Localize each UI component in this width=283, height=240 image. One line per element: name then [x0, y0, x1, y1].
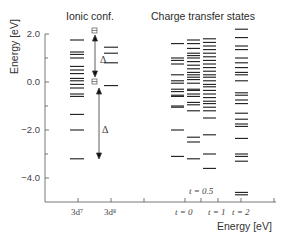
arrow-down-icon	[93, 71, 98, 77]
x-label-t2: t = 2	[232, 207, 250, 217]
x-label-t05: t = 0.5	[189, 186, 213, 196]
y-tick-label: −2.0	[10, 124, 40, 135]
y-tick-label: 2.0	[10, 28, 40, 39]
x-label-t0: t = 0	[175, 207, 193, 217]
ionic-column-title: Ionic conf.	[66, 10, 114, 22]
x-axis-ticks	[78, 198, 274, 202]
arrow-up-icon	[93, 35, 98, 41]
charge-transfer-column-title: Charge transfer states	[151, 10, 255, 22]
x-label-3d7: 3d⁷	[71, 207, 83, 217]
arrow-up-icon	[97, 88, 102, 94]
energy-level-diagram	[0, 0, 283, 240]
y-tick-label: 0.0	[10, 76, 40, 87]
energy-levels	[70, 29, 248, 195]
delta-label: Δ	[100, 54, 106, 65]
x-label-t1: t = 1	[208, 207, 226, 217]
arrow-down-icon	[97, 153, 102, 159]
x-label-3d8: 3d⁸	[104, 207, 116, 217]
delta-label: Δ	[102, 124, 108, 135]
x-axis-title: Energy [eV]	[217, 220, 272, 232]
y-tick-label: −4.0	[10, 172, 40, 183]
y-axis-ticks	[45, 34, 49, 178]
